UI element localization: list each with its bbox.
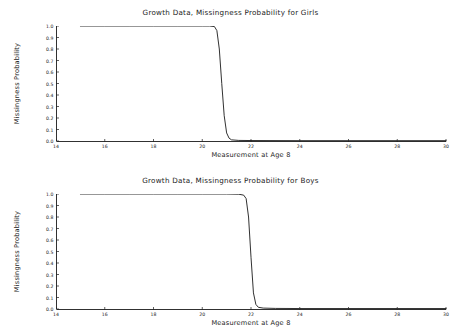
y-axis-label-wrap-girls: Missingness Probability	[22, 26, 33, 141]
y-tick-label: 0.3	[46, 104, 54, 109]
chart-title-girls: Growth Data, Missingness Probability for…	[0, 8, 461, 17]
y-tick-label: 0.0	[46, 139, 54, 144]
y-tick-label: 0.4	[46, 93, 54, 98]
y-tick-label: 0.9	[46, 203, 54, 208]
y-tick-label: 0.6	[46, 238, 54, 243]
x-tick-label: 20	[199, 312, 205, 317]
x-tick-label: 16	[102, 144, 108, 149]
x-tick-label: 24	[297, 144, 303, 149]
chart-title-boys: Growth Data, Missingness Probability for…	[0, 176, 461, 185]
y-tick-label: 0.4	[46, 261, 54, 266]
plot-area-boys: 0.00.10.20.30.40.50.60.70.80.91.01416182…	[56, 194, 446, 309]
x-tick-label: 28	[394, 144, 400, 149]
y-tick-label: 0.1	[46, 295, 54, 300]
plot-area-girls: 0.00.10.20.30.40.50.60.70.80.91.01416182…	[56, 26, 446, 141]
y-tick-label: 0.7	[46, 226, 54, 231]
x-tick-label: 18	[150, 144, 156, 149]
x-tick-label: 14	[53, 312, 59, 317]
y-tick-label: 1.0	[46, 24, 54, 29]
y-axis-label-girls: Missingness Probability	[13, 26, 24, 141]
y-tick-label: 0.8	[46, 47, 54, 52]
y-tick-label: 0.6	[46, 70, 54, 75]
plot-svg-boys	[56, 194, 447, 310]
y-tick-label: 0.2	[46, 284, 54, 289]
x-tick-label: 18	[150, 312, 156, 317]
y-tick-label: 0.5	[46, 81, 54, 86]
x-axis-label-girls: Measurement at Age 8	[56, 151, 446, 159]
y-tick-label: 0.7	[46, 58, 54, 63]
y-tick-label: 0.8	[46, 215, 54, 220]
x-tick-label: 30	[443, 144, 449, 149]
x-tick-label: 20	[199, 144, 205, 149]
y-tick-label: 0.1	[46, 127, 54, 132]
chart-girls: Growth Data, Missingness Probability for…	[0, 0, 461, 167]
y-tick-label: 0.0	[46, 307, 54, 312]
y-axis-label-boys: Missingness Probability	[13, 194, 24, 309]
x-tick-label: 16	[102, 312, 108, 317]
x-tick-label: 26	[345, 312, 351, 317]
x-tick-label: 24	[297, 312, 303, 317]
y-axis-label-wrap-boys: Missingness Probability	[22, 194, 33, 309]
x-tick-label: 22	[248, 144, 254, 149]
x-axis-label-boys: Measurement at Age 8	[56, 319, 446, 327]
y-tick-label: 0.3	[46, 272, 54, 277]
x-tick-label: 22	[248, 312, 254, 317]
y-tick-label: 0.9	[46, 35, 54, 40]
chart-boys: Growth Data, Missingness Probability for…	[0, 168, 461, 335]
x-tick-label: 14	[53, 144, 59, 149]
x-tick-label: 30	[443, 312, 449, 317]
x-tick-label: 28	[394, 312, 400, 317]
y-tick-label: 0.5	[46, 249, 54, 254]
plot-svg-girls	[56, 26, 447, 142]
x-tick-label: 26	[345, 144, 351, 149]
y-tick-label: 1.0	[46, 192, 54, 197]
y-tick-label: 0.2	[46, 116, 54, 121]
